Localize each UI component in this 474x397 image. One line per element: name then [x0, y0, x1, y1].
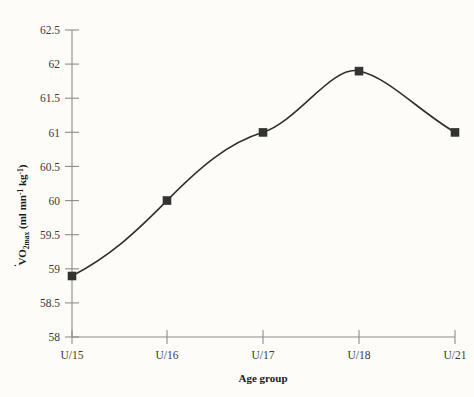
- data-point-marker: [163, 197, 171, 205]
- y-tick-label: 60.5: [40, 161, 60, 173]
- y-tick-label: 59.5: [40, 229, 60, 241]
- y-tick-label: 58: [49, 331, 61, 343]
- y-axis-title-close: ): [16, 164, 29, 168]
- y-axis-title-mid: kg: [16, 174, 28, 189]
- y-tick-label: 58.5: [40, 297, 60, 309]
- data-point-marker: [259, 128, 267, 136]
- data-point-marker: [355, 67, 363, 75]
- data-point-marker: [451, 128, 459, 136]
- y-tick-label: 62.5: [40, 24, 60, 36]
- y-tick-label: 62: [49, 58, 61, 70]
- x-tick-label: U/21: [444, 349, 467, 361]
- x-tick-label: U/15: [61, 349, 84, 361]
- x-tick-label: U/17: [252, 349, 275, 361]
- y-tick-label: 60: [49, 195, 61, 207]
- y-tick-label: 61: [49, 127, 61, 139]
- y-axis-title-open: (ml mn: [16, 195, 29, 232]
- x-tick-label: U/16: [156, 349, 179, 361]
- y-axis-title-sub: 2max: [22, 231, 31, 249]
- x-tick-label: U/18: [348, 349, 371, 361]
- y-tick-label: 59: [49, 263, 61, 275]
- x-axis-title: Age group: [239, 372, 288, 384]
- data-point-marker: [68, 272, 76, 280]
- y-tick-label: 61.5: [40, 92, 60, 104]
- vo2max-line-chart: 58 58.5 59 59.5 60 60.5 61 61.5 62 62.5 …: [0, 0, 474, 397]
